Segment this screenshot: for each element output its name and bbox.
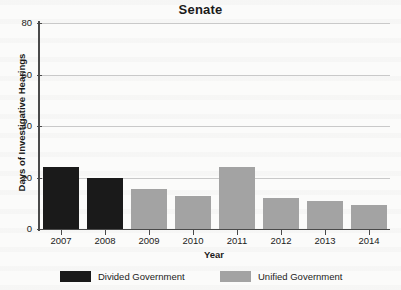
chart-legend: Divided GovernmentUnified Government — [38, 270, 390, 286]
bar-series — [39, 23, 390, 229]
y-tick-label: 40 — [6, 121, 32, 131]
legend-item[interactable]: Divided Government — [60, 270, 185, 283]
y-tick-label: 60 — [6, 70, 32, 80]
chart-title: Senate — [0, 2, 401, 17]
legend-item[interactable]: Unified Government — [220, 270, 342, 283]
y-tick-label: 80 — [6, 18, 32, 28]
legend-label: Divided Government — [98, 271, 185, 282]
x-tick-label: 2012 — [259, 236, 303, 246]
y-tick-label: 0 — [6, 224, 32, 234]
legend-label: Unified Government — [258, 271, 342, 282]
legend-swatch — [220, 271, 251, 282]
x-tick-label: 2009 — [127, 236, 171, 246]
bar-2011 — [219, 167, 254, 229]
y-axis-tick-labels: 020406080 — [4, 23, 32, 229]
bar-2013 — [307, 201, 342, 229]
bar-2007 — [43, 167, 78, 229]
x-tick-label: 2010 — [171, 236, 215, 246]
bar-2012 — [263, 198, 298, 229]
bar-2010 — [175, 196, 210, 229]
bar-2009 — [131, 189, 166, 229]
x-axis-title: Year — [38, 249, 390, 260]
x-tick-label: 2013 — [303, 236, 347, 246]
x-tick-label: 2007 — [39, 236, 83, 246]
x-tick-label: 2011 — [215, 236, 259, 246]
y-tick-label: 20 — [6, 173, 32, 183]
legend-swatch — [60, 271, 91, 282]
chart-screenshot: Senate Days of Investigative Hearings 02… — [0, 0, 401, 290]
bar-2008 — [87, 178, 122, 230]
x-tick-label: 2014 — [347, 236, 391, 246]
x-tick-label: 2008 — [83, 236, 127, 246]
bar-2014 — [351, 205, 386, 229]
